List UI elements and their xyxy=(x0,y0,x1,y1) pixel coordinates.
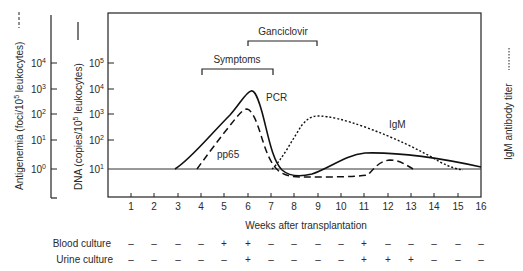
svg-text:4: 4 xyxy=(198,201,204,212)
svg-text:15: 15 xyxy=(452,201,464,212)
svg-text:–: – xyxy=(338,254,344,265)
svg-text:12: 12 xyxy=(382,201,394,212)
svg-text:–: – xyxy=(291,238,297,249)
svg-text:IgM antibody titer: IgM antibody titer xyxy=(503,83,514,160)
svg-text:–: – xyxy=(198,238,204,249)
x-tick-labels: 12 34 56 78 910 1112 1314 1516 xyxy=(128,201,487,212)
dna-axis: 105 104 103 102 101 DNA (copies/105 leuk… xyxy=(72,22,104,190)
svg-text:100: 100 xyxy=(31,163,46,175)
svg-text:–: – xyxy=(478,238,484,249)
svg-text:–: – xyxy=(221,254,227,265)
svg-text:–: – xyxy=(338,238,344,249)
svg-text:102: 102 xyxy=(89,134,104,146)
antigenemia-axis-label: Antigenemia (foci/105 leukocytes) xyxy=(13,42,25,190)
x-axis-label: Weeks after transplantation xyxy=(245,220,367,231)
svg-text:10: 10 xyxy=(335,201,347,212)
svg-text:5: 5 xyxy=(221,201,227,212)
blood-culture-row: Blood culture –– –– ++ –– –– +– –– –– xyxy=(53,238,485,249)
svg-text:13: 13 xyxy=(405,201,417,212)
svg-text:9: 9 xyxy=(315,201,321,212)
svg-text:–: – xyxy=(408,238,414,249)
svg-text:–: – xyxy=(478,254,484,265)
svg-text:–: – xyxy=(151,254,157,265)
svg-text:+: + xyxy=(245,238,251,249)
svg-text:11: 11 xyxy=(359,201,370,212)
svg-text:–: – xyxy=(315,254,321,265)
svg-text:6: 6 xyxy=(245,201,251,212)
svg-text:–: – xyxy=(431,238,437,249)
dna-axis-label: DNA (copies/105 leukocytes) xyxy=(72,63,84,190)
svg-text:–: – xyxy=(175,254,181,265)
svg-text:+: + xyxy=(361,238,367,249)
svg-text:16: 16 xyxy=(475,201,487,212)
antigenemia-axis: 104 103 102 101 100 Antigenemia (foci/10… xyxy=(13,12,57,198)
pcr-label: PCR xyxy=(266,92,287,103)
svg-text:7: 7 xyxy=(268,201,274,212)
svg-text:102: 102 xyxy=(31,108,46,120)
svg-text:–: – xyxy=(385,238,391,249)
svg-text:Blood culture: Blood culture xyxy=(53,238,112,249)
svg-text:2: 2 xyxy=(151,201,157,212)
svg-text:+: + xyxy=(245,254,251,265)
ganciclovir-bracket: Ganciclovir xyxy=(248,26,317,46)
svg-text:+: + xyxy=(408,254,414,265)
svg-text:101: 101 xyxy=(89,163,104,175)
svg-text:104: 104 xyxy=(31,57,46,69)
svg-text:+: + xyxy=(221,238,227,249)
svg-text:–: – xyxy=(151,238,157,249)
svg-text:Urine culture: Urine culture xyxy=(56,254,113,265)
svg-text:–: – xyxy=(431,254,437,265)
svg-text:101: 101 xyxy=(31,134,46,146)
svg-text:Symptoms: Symptoms xyxy=(213,54,260,65)
svg-text:+: + xyxy=(361,254,367,265)
pp65-label: pp65 xyxy=(217,149,240,160)
svg-text:–: – xyxy=(128,254,134,265)
pcr-curve xyxy=(175,91,481,176)
svg-text:104: 104 xyxy=(89,83,104,95)
svg-text:1: 1 xyxy=(128,201,134,212)
svg-text:+: + xyxy=(385,254,391,265)
svg-text:–: – xyxy=(268,254,274,265)
urine-culture-row: Urine culture –– –– –+ –– –– ++ +– –– xyxy=(56,254,484,265)
svg-text:–: – xyxy=(291,254,297,265)
svg-text:103: 103 xyxy=(31,83,46,95)
igm-label: IgM xyxy=(389,119,406,130)
svg-text:8: 8 xyxy=(291,201,297,212)
chart-figure: 104 103 102 101 100 Antigenemia (foci/10… xyxy=(0,0,523,271)
svg-text:105: 105 xyxy=(89,57,104,69)
symptoms-bracket: Symptoms xyxy=(202,54,273,75)
svg-text:3: 3 xyxy=(175,201,181,212)
svg-text:–: – xyxy=(128,238,134,249)
svg-text:Ganciclovir: Ganciclovir xyxy=(258,26,308,37)
svg-text:–: – xyxy=(315,238,321,249)
igm-titer-axis: IgM antibody titer xyxy=(503,48,514,160)
svg-text:103: 103 xyxy=(89,108,104,120)
svg-text:–: – xyxy=(268,238,274,249)
svg-text:–: – xyxy=(175,238,181,249)
svg-text:–: – xyxy=(455,238,461,249)
svg-text:14: 14 xyxy=(428,201,440,212)
pp65-curve xyxy=(197,109,413,177)
igm-curve xyxy=(272,116,463,170)
svg-text:–: – xyxy=(455,254,461,265)
svg-text:–: – xyxy=(198,254,204,265)
